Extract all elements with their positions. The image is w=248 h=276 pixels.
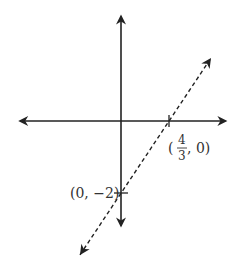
line-upper-arrow-icon: [201, 58, 211, 69]
x-intercept-denominator: 3: [178, 149, 186, 163]
line-lower-arrow-icon: [80, 244, 90, 255]
x-intercept-numerator: 4: [178, 133, 186, 147]
dashed-line-0: [80, 58, 211, 255]
y-intercept-label: (0, −2): [70, 185, 119, 201]
chart: (0, −2) ( 4 3 , 0): [0, 0, 248, 276]
x-intercept-label-open: (: [168, 140, 173, 156]
x-intercept-label-close: , 0): [187, 140, 210, 156]
